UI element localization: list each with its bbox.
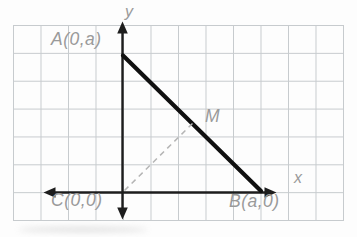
y-axis-up-arrow-icon xyxy=(117,22,128,34)
y-axis-down-arrow-icon xyxy=(117,208,128,220)
label-point-b: B(a,0) xyxy=(229,193,280,211)
page-shadow xyxy=(18,227,148,232)
x-axis-label: x xyxy=(294,170,303,186)
figure-canvas: y A(0,a) M x C(0,0) B(a,0) xyxy=(0,0,357,237)
dashed-median-cm xyxy=(125,124,193,191)
y-axis-label: y xyxy=(125,4,134,20)
label-point-m: M xyxy=(205,108,220,126)
label-point-c: C(0,0) xyxy=(51,192,103,210)
label-point-a: A(0,a) xyxy=(51,31,102,49)
